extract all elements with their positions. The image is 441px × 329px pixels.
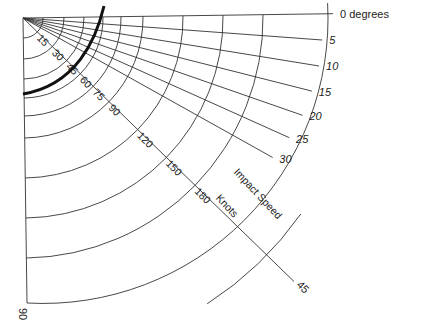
angle-label-25: 25 <box>295 133 309 145</box>
angle-label-5: 5 <box>329 34 336 46</box>
radial-line-0 <box>23 14 333 18</box>
angle-label-20: 20 <box>308 110 322 122</box>
polar-impact-diagram: 0 degrees5101520253045901530456075901201… <box>0 0 441 329</box>
speed-label-75: 75 <box>91 86 108 103</box>
radial-line-90 <box>23 18 27 303</box>
outer-arc-partial <box>207 214 301 304</box>
speed-label-90: 90 <box>106 101 123 118</box>
angle-label-10: 10 <box>326 60 339 72</box>
speed-label-150: 150 <box>164 157 185 178</box>
speed-axis-title: Impact Speed <box>232 166 285 222</box>
speed-label-15: 15 <box>35 32 52 49</box>
angle-label-45: 45 <box>295 278 312 295</box>
angle-label-30: 30 <box>279 153 292 165</box>
speed-label-120: 120 <box>135 129 156 150</box>
angle-label-0: 0 degrees <box>340 8 389 20</box>
angle-label-15: 15 <box>319 86 332 98</box>
angle-label-90: 90 <box>17 308 29 320</box>
speed-axis-unit: Knots <box>214 192 241 220</box>
speed-label-30: 30 <box>50 46 67 63</box>
speed-label-180: 180 <box>192 185 213 206</box>
radial-line-10 <box>23 18 319 66</box>
labels: 0 degrees5101520253045901530456075901201… <box>17 8 389 321</box>
